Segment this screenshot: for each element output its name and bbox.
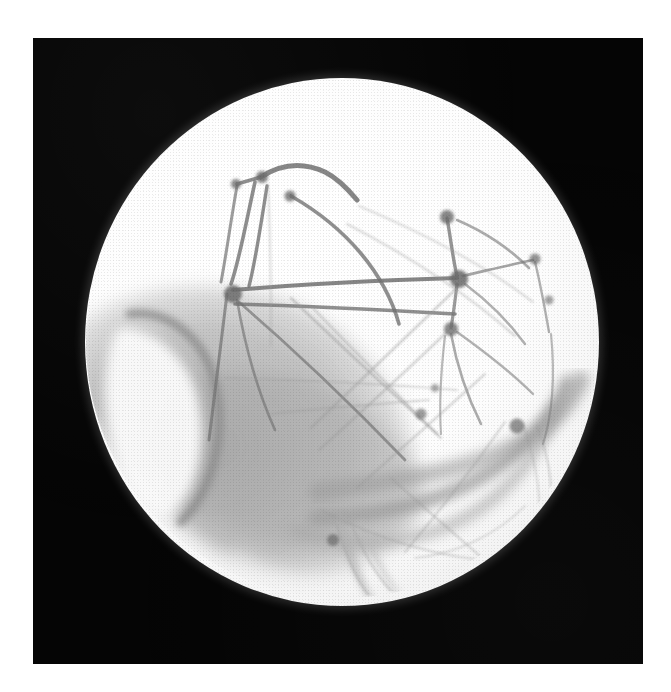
plate-caption <box>40 676 340 692</box>
limb-shading-overlay <box>85 78 599 606</box>
planet-disk-container <box>85 78 599 606</box>
photographic-plate <box>33 38 643 664</box>
planet-disk <box>85 78 599 606</box>
page-root <box>0 0 671 692</box>
